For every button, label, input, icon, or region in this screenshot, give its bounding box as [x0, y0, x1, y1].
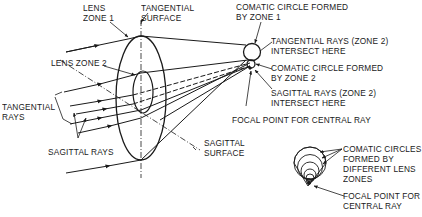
- label-sagittal-surface: SAGITTAL SURFACE: [204, 138, 245, 158]
- label-lens-zone-2: LENS ZONE 2: [51, 58, 107, 68]
- nested-comatic-circles: [294, 147, 326, 186]
- label-lens-zone-1: LENS ZONE 1: [83, 3, 114, 23]
- coma-diagram: LENS ZONE 1 TANGENTIAL SURFACE LENS ZONE…: [0, 0, 422, 217]
- label-comatic-circles-different-zones: COMATIC CIRCLES FORMED BY DIFFERENT LENS…: [343, 144, 422, 184]
- label-sagittal-rays-zone2: SAGITTAL RAYS (ZONE 2) INTERSECT HERE: [271, 88, 376, 108]
- label-focal-point-central: FOCAL POINT FOR CENTRAL RAY: [232, 115, 371, 125]
- comatic-circle-zone-1: [244, 44, 261, 61]
- label-sagittal-rays: SAGITTAL RAYS: [48, 147, 114, 157]
- label-focal-point-central-2: FOCAL POINT FOR CENTRAL RAY: [343, 191, 420, 211]
- label-tangential-rays-zone2: TANGENTIAL RAYS (ZONE 2) INTERSECT HERE: [271, 36, 388, 56]
- label-tangential-rays: TANGENTIAL RAYS: [2, 102, 55, 122]
- label-comatic-circle-zone-2: COMATIC CIRCLE FORMED BY ZONE 2: [271, 63, 383, 83]
- label-tangential-surface: TANGENTIAL SURFACE: [141, 3, 194, 23]
- label-comatic-circle-zone-1: COMATIC CIRCLE FORMED BY ZONE 1: [236, 2, 348, 22]
- diagram-drawing: [0, 0, 422, 217]
